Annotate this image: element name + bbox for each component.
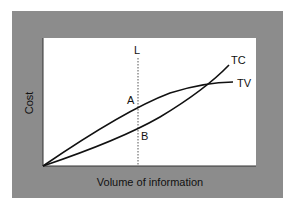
x-axis-label: Volume of information — [97, 176, 203, 188]
l-label: L — [134, 44, 140, 56]
tc-label: TC — [231, 54, 246, 66]
chart: L A B TC TV Volume of information Cost — [0, 0, 295, 209]
y-axis-label: Cost — [23, 92, 35, 115]
a-label: A — [127, 94, 135, 106]
tv-label: TV — [237, 77, 252, 89]
b-label: B — [141, 130, 148, 142]
tc-curve — [43, 65, 229, 166]
